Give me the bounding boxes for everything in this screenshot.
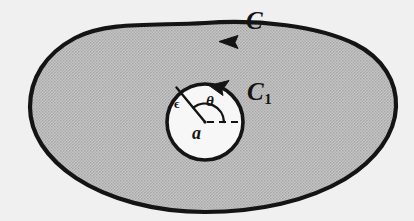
- contour-diagram-svg: [0, 0, 414, 221]
- figure-canvas: C C1 ϵ θ a: [0, 0, 414, 221]
- label-inner-contour-base: C: [247, 78, 264, 105]
- center-point-a: [203, 120, 206, 123]
- label-inner-contour-subscript: 1: [264, 91, 272, 107]
- label-radius-epsilon: ϵ: [174, 97, 179, 110]
- label-inner-contour-C1: C1: [247, 79, 272, 107]
- label-center-a: a: [192, 124, 201, 142]
- label-angle-theta: θ: [206, 94, 214, 109]
- label-outer-contour-C: C: [246, 8, 263, 33]
